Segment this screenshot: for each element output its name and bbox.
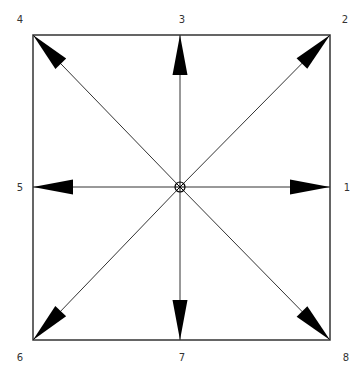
center-crosshair-icon	[175, 182, 185, 192]
direction-label-8: 8	[343, 353, 349, 363]
direction-label-7: 7	[179, 353, 185, 363]
direction-label-1: 1	[344, 183, 350, 193]
arrowhead-icon-3	[173, 35, 188, 75]
direction-label-5: 5	[17, 183, 23, 193]
arrowhead-icon-1	[290, 180, 330, 195]
arrowhead-icon-5	[33, 180, 73, 195]
direction-label-2: 2	[342, 15, 348, 25]
arrowhead-icon-7	[173, 300, 188, 340]
direction-label-6: 6	[17, 353, 23, 363]
direction-label-4: 4	[17, 15, 23, 25]
direction-label-3: 3	[179, 15, 185, 25]
direction-diagram	[0, 0, 364, 381]
